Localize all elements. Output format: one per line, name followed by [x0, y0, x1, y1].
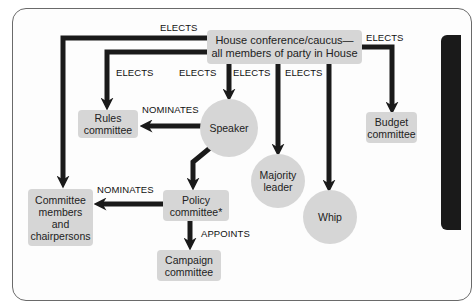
label-nominates-members: NOMINATES: [97, 184, 154, 195]
node-policy-committee: Policy committee*: [163, 190, 229, 221]
label-elects-budget: ELECTS: [366, 32, 404, 43]
members-line1: Committee: [35, 194, 86, 206]
rules-line1: Rules: [95, 112, 122, 124]
members-line3: and: [52, 218, 70, 230]
label-elects-rules: ELECTS: [116, 67, 154, 78]
house-line2: all members of party in House: [211, 47, 357, 59]
label-elects-members: ELECTS: [160, 22, 198, 33]
majority-line2: leader: [263, 181, 292, 193]
label-appoints-campaign: APPOINTS: [201, 228, 250, 239]
campaign-line2: committee: [165, 266, 213, 278]
members-line2: members: [39, 206, 83, 218]
label-elects-whip: ELECTS: [285, 67, 323, 78]
budget-line2: committee: [367, 128, 415, 140]
whip-label: Whip: [318, 211, 342, 223]
house-line1: House conference/caucus—: [215, 34, 353, 46]
arrow-elects-budget: [362, 47, 392, 108]
policy-line2: committee*: [170, 206, 223, 218]
node-rules-committee: Rules committee: [78, 110, 138, 138]
node-whip: Whip: [303, 190, 357, 244]
majority-line1: Majority: [260, 169, 297, 181]
rules-line2: committee: [84, 124, 132, 136]
members-line4: chairpersons: [30, 230, 90, 242]
node-budget-committee: Budget committee: [366, 112, 417, 143]
node-house-conference: House conference/caucus— all members of …: [207, 30, 362, 64]
policy-line1: Policy: [182, 194, 210, 206]
label-nominates-rules: NOMINATES: [142, 104, 199, 115]
arrow-speaker-policy: [193, 148, 210, 184]
node-speaker: Speaker: [200, 99, 258, 157]
label-elects-speaker: ELECTS: [179, 67, 217, 78]
node-committee-members: Committee members and chairpersons: [28, 189, 93, 246]
node-majority-leader: Majority leader: [251, 154, 305, 208]
label-elects-majority: ELECTS: [233, 67, 271, 78]
campaign-line1: Campaign: [165, 254, 213, 266]
speaker-label: Speaker: [209, 122, 248, 134]
budget-line1: Budget: [375, 116, 408, 128]
arrow-elects-rules: [107, 52, 207, 104]
node-campaign-committee: Campaign committee: [157, 250, 221, 281]
